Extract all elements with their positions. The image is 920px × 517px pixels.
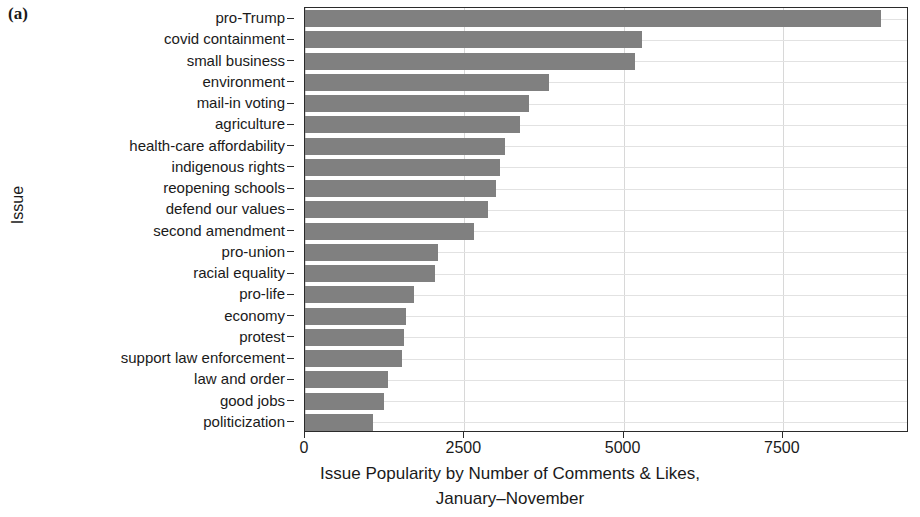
- y-tick-mark: [287, 166, 294, 167]
- x-tick-label: 7500: [764, 439, 800, 457]
- y-axis-title: Issue: [9, 165, 27, 245]
- y-tick-label: agriculture: [215, 113, 285, 134]
- horizontal-gridline: [305, 380, 907, 381]
- y-tick-mark: [287, 251, 294, 252]
- bar: [305, 265, 435, 282]
- y-tick-mark: [287, 18, 294, 19]
- y-tick-label: mail-in voting: [197, 92, 285, 113]
- y-tick-mark: [287, 188, 294, 189]
- bar: [305, 223, 474, 240]
- y-tick-mark: [287, 124, 294, 125]
- bar: [305, 74, 549, 91]
- y-tick-label: economy: [224, 305, 285, 326]
- bar: [305, 53, 635, 70]
- vertical-gridline: [624, 8, 625, 431]
- bar: [305, 371, 388, 388]
- y-tick-label: pro-life: [239, 283, 285, 304]
- bar: [305, 180, 496, 197]
- bar: [305, 393, 384, 410]
- x-tick-label: 0: [300, 439, 309, 457]
- y-tick-label: politicization: [203, 411, 285, 432]
- y-tick-label: good jobs: [220, 390, 285, 411]
- y-tick-mark: [287, 145, 294, 146]
- bar: [305, 201, 488, 218]
- y-tick-mark: [287, 400, 294, 401]
- bar: [305, 116, 520, 133]
- panel-label: (a): [8, 4, 28, 24]
- y-tick-mark: [287, 103, 294, 104]
- y-tick-mark: [287, 358, 294, 359]
- y-tick-label: protest: [239, 326, 285, 347]
- bar: [305, 286, 414, 303]
- bar-chart-figure: (a) Issue pro-Trumpcovid containmentsmal…: [0, 0, 920, 517]
- y-tick-mark: [287, 230, 294, 231]
- x-axis-title-line-1: Issue Popularity by Number of Comments &…: [240, 461, 780, 486]
- bar: [305, 159, 500, 176]
- x-tick-label: 5000: [605, 439, 641, 457]
- y-tick-label: covid containment: [164, 28, 285, 49]
- y-tick-label: health-care affordability: [129, 135, 285, 156]
- y-tick-label: small business: [187, 50, 285, 71]
- y-tick-mark: [287, 379, 294, 380]
- y-tick-label: defend our values: [166, 198, 285, 219]
- y-tick-label: racial equality: [193, 262, 285, 283]
- bar: [305, 10, 881, 27]
- horizontal-gridline: [305, 422, 907, 423]
- bar: [305, 138, 505, 155]
- y-tick-mark: [287, 315, 294, 316]
- bar: [305, 95, 529, 112]
- bar: [305, 414, 373, 431]
- bar: [305, 329, 404, 346]
- bar: [305, 350, 402, 367]
- y-tick-label: pro-Trump: [216, 7, 285, 28]
- y-tick-mark: [287, 273, 294, 274]
- bar: [305, 308, 406, 325]
- y-tick-label: environment: [202, 71, 285, 92]
- x-tick-mark: [304, 432, 305, 438]
- y-tick-mark: [287, 336, 294, 337]
- x-tick-label: 2500: [445, 439, 481, 457]
- y-tick-mark: [287, 81, 294, 82]
- x-tick-mark: [782, 432, 783, 438]
- x-axis: 0250050007500: [304, 432, 908, 462]
- vertical-gridline: [783, 8, 784, 431]
- bar: [305, 31, 642, 48]
- bar: [305, 244, 438, 261]
- vertical-gridline: [464, 8, 465, 431]
- vertical-gridline: [305, 8, 306, 431]
- y-tick-mark: [287, 60, 294, 61]
- horizontal-gridline: [305, 401, 907, 402]
- x-tick-mark: [623, 432, 624, 438]
- y-tick-label: second amendment: [153, 220, 285, 241]
- y-tick-mark: [287, 421, 294, 422]
- y-tick-label: law and order: [194, 368, 285, 389]
- y-tick-label: reopening schools: [163, 177, 285, 198]
- y-axis-tick-labels: pro-Trumpcovid containmentsmall business…: [40, 7, 295, 432]
- plot-area: [304, 7, 908, 432]
- y-tick-mark: [287, 39, 294, 40]
- y-tick-label: support law enforcement: [121, 347, 285, 368]
- x-tick-mark: [463, 432, 464, 438]
- x-axis-title: Issue Popularity by Number of Comments &…: [240, 461, 780, 511]
- y-tick-label: pro-union: [222, 241, 285, 262]
- y-tick-label: indigenous rights: [172, 156, 285, 177]
- y-tick-mark: [287, 209, 294, 210]
- y-tick-mark: [287, 294, 294, 295]
- x-axis-title-line-2: January–November: [240, 486, 780, 511]
